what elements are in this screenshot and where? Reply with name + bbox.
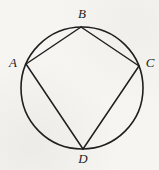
- chord-BC: [81, 27, 139, 66]
- chord-DA: [26, 64, 83, 149]
- chord-AB: [26, 27, 81, 64]
- chord-CD: [83, 66, 139, 149]
- vertex-label-c: C: [146, 56, 155, 69]
- vertex-label-b: B: [78, 7, 86, 20]
- diagram-canvas: A B C D: [0, 0, 159, 170]
- vertex-label-a: A: [9, 56, 17, 69]
- inscribed-quadrilateral-diagram: [0, 0, 159, 170]
- vertex-label-d: D: [78, 152, 87, 165]
